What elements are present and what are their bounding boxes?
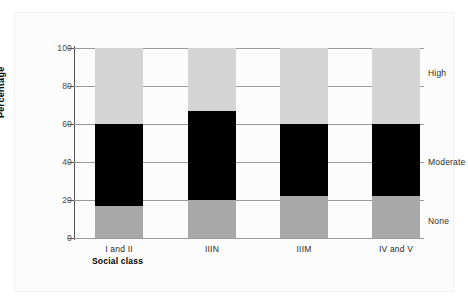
bar-segment-high[interactable] <box>372 48 420 124</box>
y-tick-label-40: 40 <box>42 157 72 167</box>
plot-area: 020406080100 <box>74 48 424 238</box>
bar-iiim[interactable] <box>280 48 328 238</box>
bar-segment-high[interactable] <box>280 48 328 124</box>
y-tick-label-0: 0 <box>42 233 72 243</box>
bar-segment-moderate[interactable] <box>372 124 420 196</box>
bar-segment-moderate[interactable] <box>188 111 236 200</box>
x-category-label-iv-and-v: IV and V <box>351 244 441 254</box>
bar-segment-none[interactable] <box>188 200 236 238</box>
bar-iiin[interactable] <box>188 48 236 238</box>
bar-i-and-ii[interactable] <box>95 48 143 238</box>
bar-segment-none[interactable] <box>372 196 420 238</box>
y-tick-label-100: 100 <box>42 43 72 53</box>
bar-segment-none[interactable] <box>95 206 143 238</box>
chart-figure: Percentage 020406080100 Social class I a… <box>0 0 468 304</box>
x-category-label-i-and-ii: I and II <box>74 244 164 254</box>
segment-legend-high: High <box>428 68 446 78</box>
bar-segment-none[interactable] <box>280 196 328 238</box>
y-tick-label-20: 20 <box>42 195 72 205</box>
bar-iv-and-v[interactable] <box>372 48 420 238</box>
bar-segment-moderate[interactable] <box>95 124 143 206</box>
y-axis-title: Percentage <box>0 66 6 118</box>
bar-segment-high[interactable] <box>188 48 236 111</box>
x-category-label-iiin: IIIN <box>167 244 257 254</box>
bar-segment-high[interactable] <box>95 48 143 124</box>
segment-legend-none: None <box>428 216 449 226</box>
y-tick-label-60: 60 <box>42 119 72 129</box>
segment-legend-moderate: Moderate <box>428 157 466 167</box>
y-tick-label-80: 80 <box>42 81 72 91</box>
gridline-0 <box>74 238 424 239</box>
x-axis-title: Social class <box>92 256 143 266</box>
bar-segment-moderate[interactable] <box>280 124 328 196</box>
x-category-label-iiim: IIIM <box>259 244 349 254</box>
